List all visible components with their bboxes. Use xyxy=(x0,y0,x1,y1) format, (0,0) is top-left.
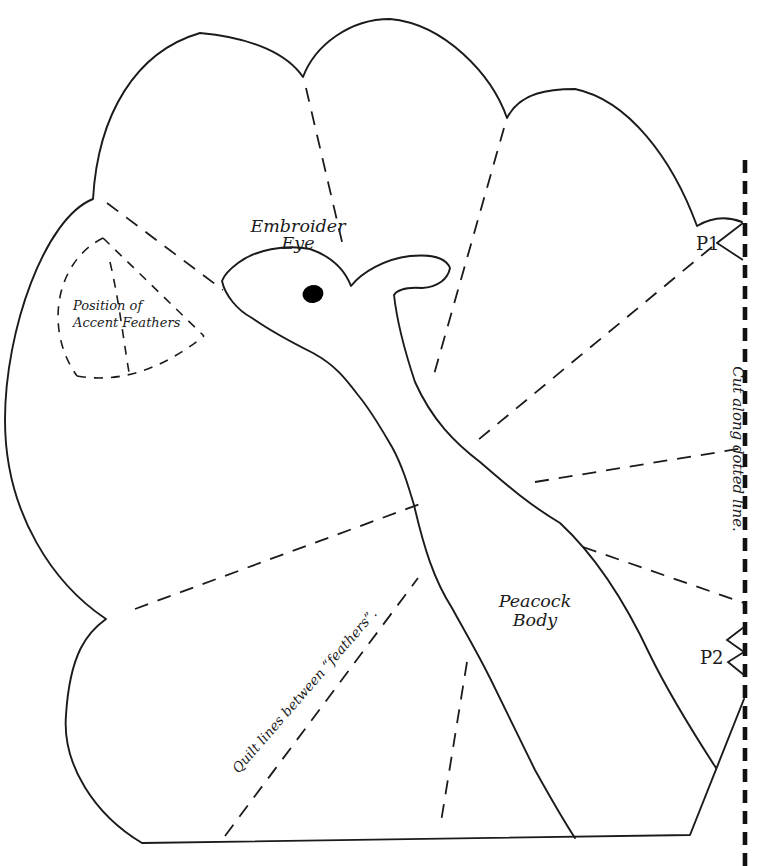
p1-notch xyxy=(717,223,743,260)
peacock-body-outline xyxy=(222,247,716,838)
p1-notch-label: P1 xyxy=(696,233,720,254)
quilt-line-8 xyxy=(225,578,418,836)
quilt-line-3 xyxy=(433,128,504,378)
peacock-body-label-line2: Body xyxy=(512,610,559,630)
p2-notch-label: P2 xyxy=(700,647,724,668)
p2-notch xyxy=(727,627,744,675)
accent-position-label-line1: Position of xyxy=(72,298,144,313)
tail-scallop-outline xyxy=(5,19,744,843)
quilt-note-label: Quilt lines between “feathers”. xyxy=(229,606,380,776)
cut-note-label: Cut along dotted line. xyxy=(729,366,747,532)
quilt-line-6 xyxy=(583,547,744,603)
embroider-eye-label-line2: Eye xyxy=(280,233,314,253)
peacock-pattern-diagram: Embroider Eye Position of Accent Feather… xyxy=(0,0,763,866)
accent-position-label-line2: Accent Feathers xyxy=(72,315,181,330)
peacock-body-label-line1: Peacock xyxy=(498,591,572,611)
accent-fan-bottom-edge xyxy=(77,336,204,378)
pattern-page: Embroider Eye Position of Accent Feather… xyxy=(0,0,763,866)
quilt-line-4 xyxy=(478,247,712,440)
quilt-line-5 xyxy=(535,448,744,482)
quilt-line-9 xyxy=(441,662,467,822)
eye-dot xyxy=(301,283,325,305)
quilt-line-1 xyxy=(107,203,223,290)
quilt-line-7 xyxy=(135,504,420,609)
